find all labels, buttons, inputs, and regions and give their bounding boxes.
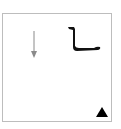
l-shape-stroke-icon (64, 24, 104, 54)
triangle-up-icon (95, 106, 109, 118)
arrow-down-icon (28, 30, 40, 60)
